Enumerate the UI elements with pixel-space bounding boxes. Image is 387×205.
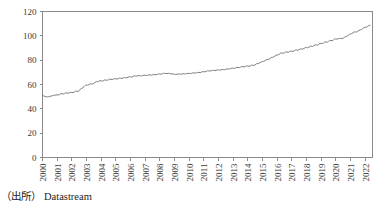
y-tick-label: 20: [28, 128, 38, 138]
x-tick-label: 2010: [185, 163, 195, 182]
x-tick-label: 2016: [273, 163, 283, 182]
x-tick-label: 2003: [82, 163, 92, 182]
y-axis: 020406080100120: [23, 7, 43, 163]
x-tick-label: 2008: [155, 163, 165, 182]
chart-svg: 020406080100120 200020012002200320042005…: [0, 0, 387, 205]
x-tick-label: 2002: [67, 164, 77, 182]
x-tick-label: 2006: [126, 163, 136, 182]
source-value: Datastream: [44, 191, 92, 202]
x-tick-label: 2007: [141, 163, 151, 182]
y-tick-label: 80: [28, 55, 38, 65]
x-tick-label: 2012: [214, 164, 224, 182]
y-tick-label: 120: [23, 7, 37, 17]
x-tick-group: 2000200120022003200420052006200720082009…: [38, 158, 371, 182]
source-label: （出所）: [1, 191, 41, 202]
x-tick-label: 2015: [258, 163, 268, 182]
x-tick-label: 2014: [243, 163, 253, 182]
x-axis: 2000200120022003200420052006200720082009…: [38, 158, 373, 182]
y-tick-label: 100: [23, 31, 37, 41]
data-series-line: [43, 25, 371, 97]
x-tick-label: 2009: [170, 163, 180, 182]
x-tick-label: 2000: [38, 163, 48, 182]
y-tick-group: 020406080100120: [23, 7, 43, 163]
x-tick-label: 2019: [317, 163, 327, 182]
plot-frame: [43, 12, 373, 158]
x-tick-label: 2013: [229, 163, 239, 182]
x-tick-label: 2020: [331, 163, 341, 182]
x-tick-label: 2021: [346, 164, 356, 182]
line-chart: 020406080100120 200020012002200320042005…: [0, 0, 387, 205]
source-note: （出所）Datastream: [1, 188, 92, 203]
y-tick-label: 60: [28, 80, 38, 90]
x-tick-label: 2022: [361, 164, 371, 182]
y-tick-label: 0: [32, 153, 37, 163]
figure-container: 020406080100120 200020012002200320042005…: [0, 0, 387, 205]
x-tick-label: 2011: [199, 164, 209, 182]
x-tick-label: 2004: [97, 163, 107, 182]
x-tick-label: 2005: [111, 163, 121, 182]
x-tick-label: 2018: [302, 163, 312, 182]
y-tick-label: 40: [28, 104, 38, 114]
x-tick-label: 2001: [53, 164, 63, 182]
x-tick-label: 2017: [287, 163, 297, 182]
